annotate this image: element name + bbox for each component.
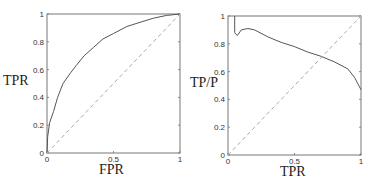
y-tick-label: 0.4 (214, 95, 226, 104)
x-tick-label: 1 (359, 157, 364, 166)
chart-canvas: 00.20.40.60.8100.51 00.20.40.60.8100.51 (0, 0, 372, 190)
y-tick-label: 1 (40, 10, 45, 19)
roc-plot: 00.20.40.60.8100.51 (33, 10, 183, 164)
y-tick-label: 0.2 (214, 123, 226, 132)
precision-xlabel: TPR (280, 164, 306, 180)
x-tick-label: 0 (45, 155, 50, 164)
roc-ylabel: TPR (3, 73, 29, 89)
diagonal-reference-line (47, 14, 180, 153)
x-tick-label: 1 (178, 155, 183, 164)
precision-plot: 00.20.40.60.8100.51 (214, 12, 364, 166)
precision-ylabel: TP/P (190, 75, 218, 91)
y-tick-label: 0.8 (214, 40, 226, 49)
diagonal-reference-line (228, 16, 361, 155)
y-tick-label: 0.8 (33, 38, 45, 47)
roc-xlabel: FPR (99, 162, 124, 178)
data-curve (235, 16, 361, 90)
y-tick-label: 0.2 (33, 121, 45, 130)
y-tick-label: 1 (221, 12, 226, 21)
x-tick-label: 0 (226, 157, 231, 166)
y-tick-label: 0.6 (33, 66, 45, 75)
y-tick-label: 0.4 (33, 93, 45, 102)
